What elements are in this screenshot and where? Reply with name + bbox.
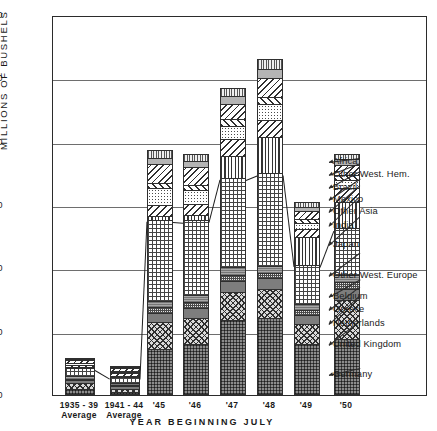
y-tick-600: 600 [0,10,3,20]
y-tick-500: 500 [0,73,3,83]
segment-greece [65,379,95,380]
segment-other-west-hem- [147,158,173,164]
segment-other-west-hem- [183,161,209,167]
connector-2 [173,222,183,224]
segment-united-kingdom [110,389,140,393]
segment-japan [65,367,95,368]
x-tick-7: '50 [316,400,376,410]
segment-other-asia [257,104,283,119]
segment-netherlands [294,315,320,324]
bar-45[interactable] [147,150,173,395]
segment-germany [183,344,209,395]
y-tick-300: 300 [0,200,3,210]
segment-netherlands [65,380,95,383]
segment-other-asia [294,223,320,229]
connector-4 [246,175,257,180]
segment-greece [257,273,283,279]
segment-united-kingdom [220,292,246,320]
bar-48[interactable] [257,59,283,395]
bar-47[interactable] [220,88,246,395]
segment-brazil [110,368,140,371]
segment-united-kingdom [147,322,173,350]
segment-united-kingdom [257,289,283,318]
bar-46[interactable] [183,154,209,395]
segment-belgium [294,304,320,310]
segment-greece [183,302,209,308]
segment-india [257,120,283,137]
segment-other-west-europe [294,265,320,304]
segment-netherlands [147,313,173,322]
segment-brazil [257,78,283,97]
segment-brazil [65,360,95,363]
segment-brazil [220,104,246,119]
segment-india [220,139,246,156]
segment-africa [183,154,209,160]
segment-netherlands [220,281,246,292]
segment-mexico [183,185,209,190]
segment-mexico [294,219,320,223]
x-tick-line1: '50 [316,400,376,410]
segment-india [147,205,173,216]
segment-united-kingdom [294,324,320,344]
segment-other-west-hem- [110,367,140,368]
segment-japan [147,216,173,220]
bar-194144[interactable] [110,366,140,395]
segment-germany [65,389,95,395]
segment-germany [110,392,140,395]
segment-mexico [220,119,246,126]
segment-africa [294,202,320,206]
segment-greece [220,275,246,281]
segment-other-west-europe [220,178,246,267]
segment-japan [294,237,320,265]
y-tick-0: 0 [0,390,3,400]
segment-united-kingdom [65,383,95,389]
legend-item-other-west-europe[interactable]: Other West. Europe [333,270,418,280]
segment-japan [220,156,246,178]
segment-germany [147,349,173,395]
segment-other-west-hem- [257,69,283,78]
gridline-500 [53,80,426,81]
bar-49[interactable] [294,202,320,395]
segment-mexico [257,97,283,105]
segment-netherlands [183,308,209,318]
segment-brazil [183,167,209,185]
segment-other-asia [65,363,95,365]
segment-other-asia [220,126,246,139]
segment-africa [257,59,283,69]
segment-germany [220,320,246,395]
segment-other-west-europe [257,173,283,265]
segment-greece [110,385,140,386]
legend-item-netherlands[interactable]: Netherlands [333,318,385,328]
segment-other-west-europe [183,220,209,295]
y-tick-200: 200 [0,263,3,273]
segment-other-west-europe [147,220,173,301]
y-tick-400: 400 [0,137,3,147]
segment-germany [294,344,320,395]
segment-netherlands [110,386,140,389]
segment-germany [257,318,283,395]
segment-greece [294,310,320,315]
segment-africa [110,366,140,367]
segment-belgium [65,376,95,379]
segment-belgium [147,301,173,307]
segment-japan [183,215,209,220]
segment-other-west-europe [110,377,140,383]
segment-brazil [147,164,173,183]
segment-india [294,229,320,237]
segment-belgium [220,267,246,275]
segment-japan [110,376,140,377]
bar-193539[interactable] [65,358,95,395]
segment-belgium [257,266,283,273]
legend-item-united-kingdom[interactable]: United Kingdom [333,339,401,349]
legend-item-japan[interactable]: Japan [333,239,359,249]
segment-africa [65,358,95,359]
stacked-bar-chart: MILLIONS OF BUSHELS 600 500 400 300 200 … [0,0,437,431]
segment-netherlands [257,278,283,288]
segment-united-kingdom [183,318,209,345]
segment-belgium [183,295,209,302]
segment-other-asia [110,372,140,374]
segment-india [110,373,140,376]
legend-item-other-west-hem-[interactable]: Other West. Hem. [333,169,410,179]
y-tick-100: 100 [0,327,3,337]
segment-india [183,204,209,215]
